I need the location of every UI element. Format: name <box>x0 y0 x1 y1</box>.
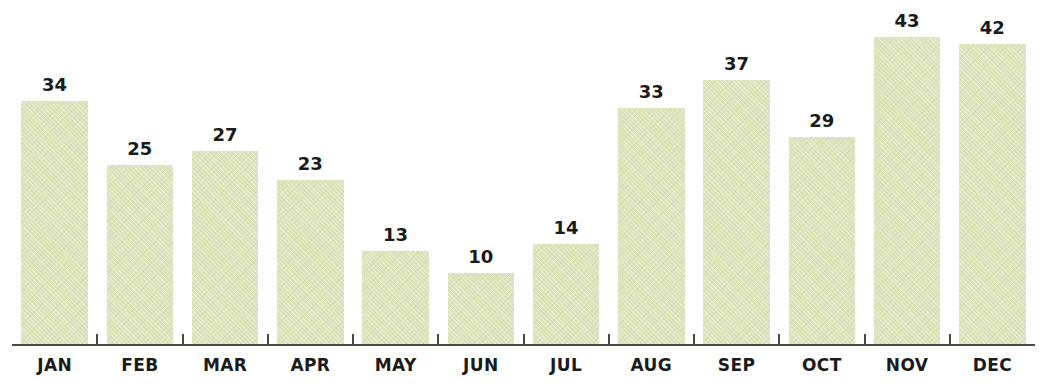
bar-group: 25 <box>107 8 173 344</box>
bar-value-label: 29 <box>789 112 855 130</box>
bar[interactable] <box>107 165 173 344</box>
bar[interactable] <box>192 151 258 344</box>
x-axis-tick-mark <box>182 334 184 345</box>
x-axis-tick-label: DEC <box>950 350 1035 380</box>
bar[interactable] <box>533 244 599 344</box>
bar[interactable] <box>618 108 684 344</box>
x-axis-tick-mark <box>523 334 525 345</box>
x-axis-tick-label: OCT <box>779 350 864 380</box>
bar-chart: 342527231310143337294342 JANFEBMARAPRMAY… <box>0 0 1047 390</box>
x-axis-tick-label: NOV <box>865 350 950 380</box>
bar[interactable] <box>277 180 343 344</box>
x-axis-tick-label: APR <box>268 350 353 380</box>
bar-value-label: 34 <box>21 76 87 94</box>
bar-group: 27 <box>192 8 258 344</box>
plot-area: 342527231310143337294342 <box>12 8 1035 344</box>
x-axis-tick-mark <box>352 334 354 345</box>
bar-group: 29 <box>789 8 855 344</box>
bar[interactable] <box>703 80 769 345</box>
bar-group: 34 <box>21 8 87 344</box>
bar-value-label: 27 <box>192 126 258 144</box>
x-axis-tick-mark <box>864 334 866 345</box>
bar-value-label: 10 <box>448 248 514 266</box>
x-axis-tick-label: JUN <box>438 350 523 380</box>
x-axis-tick-label: FEB <box>97 350 182 380</box>
x-axis-tick-mark <box>437 334 439 345</box>
bar[interactable] <box>362 251 428 344</box>
bar-value-label: 23 <box>277 155 343 173</box>
x-axis-tick-label: SEP <box>694 350 779 380</box>
bar-group: 43 <box>874 8 940 344</box>
bar-group: 23 <box>277 8 343 344</box>
bar[interactable] <box>21 101 87 344</box>
bar-group: 13 <box>362 8 428 344</box>
x-axis-tick-label: MAR <box>183 350 268 380</box>
bar-value-label: 37 <box>703 55 769 73</box>
bar[interactable] <box>874 37 940 344</box>
bar-group: 42 <box>959 8 1025 344</box>
x-axis-tick-mark <box>778 334 780 345</box>
x-axis-tick-label: JAN <box>12 350 97 380</box>
x-axis-label-row: JANFEBMARAPRMAYJUNJULAUGSEPOCTNOVDEC <box>12 350 1035 382</box>
bar-value-label: 25 <box>107 140 173 158</box>
bar-group: 37 <box>703 8 769 344</box>
bar-value-label: 13 <box>362 226 428 244</box>
bar-value-label: 14 <box>533 219 599 237</box>
x-axis-tick-mark <box>608 334 610 345</box>
x-axis-tick-label: AUG <box>609 350 694 380</box>
bar[interactable] <box>959 44 1025 344</box>
bar[interactable] <box>789 137 855 344</box>
bar-group: 14 <box>533 8 599 344</box>
x-axis-tick-mark <box>267 334 269 345</box>
bar-value-label: 42 <box>959 19 1025 37</box>
bar-value-label: 43 <box>874 12 940 30</box>
bar[interactable] <box>448 273 514 344</box>
x-axis-tick-label: MAY <box>353 350 438 380</box>
bar-group: 10 <box>448 8 514 344</box>
x-axis-tick-mark <box>949 334 951 345</box>
x-axis-tick-mark <box>693 334 695 345</box>
x-axis-tick-mark <box>96 334 98 345</box>
bar-value-label: 33 <box>618 83 684 101</box>
x-axis-tick-label: JUL <box>524 350 609 380</box>
bar-group: 33 <box>618 8 684 344</box>
